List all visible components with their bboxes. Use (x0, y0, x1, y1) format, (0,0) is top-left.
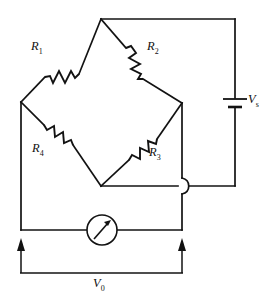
label-r1-text: R (31, 39, 39, 53)
label-r1: R1 (31, 40, 43, 56)
label-r3-subscript: 3 (157, 153, 161, 162)
label-v0-subscript: 0 (101, 284, 105, 293)
resistor-r3 (101, 103, 182, 186)
battery-symbol (223, 99, 247, 107)
label-r2-subscript: 2 (155, 47, 159, 56)
wheatstone-bridge-figure: R1 R2 R4 R3 Vs V0 (0, 0, 274, 299)
resistor-r2 (101, 19, 182, 103)
label-r1-subscript: 1 (39, 47, 43, 56)
label-v0: V0 (93, 277, 105, 293)
label-r3: R3 (149, 146, 161, 162)
label-r4-text: R (32, 141, 40, 155)
label-vs-subscript: s (256, 100, 259, 109)
label-vs: Vs (248, 93, 259, 109)
label-r2-text: R (147, 39, 155, 53)
resistor-r1 (21, 19, 101, 102)
label-r4: R4 (32, 142, 44, 158)
label-r3-text: R (149, 145, 157, 159)
label-r2: R2 (147, 40, 159, 56)
wire-crossover-hop (182, 103, 189, 230)
galvanometer-meter (87, 215, 117, 245)
label-vs-text: V (248, 92, 256, 106)
label-r4-subscript: 4 (40, 149, 44, 158)
label-v0-text: V (93, 276, 101, 290)
